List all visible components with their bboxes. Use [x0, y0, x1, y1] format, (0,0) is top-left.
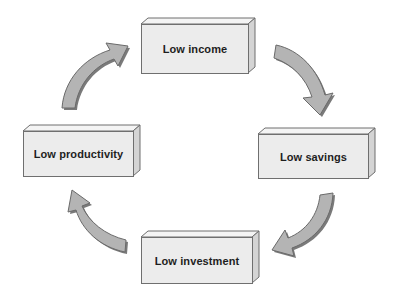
arrow-investment-to-productivity-icon: [68, 190, 128, 254]
node-face: Low income: [141, 24, 249, 74]
node-low-income: Low income: [141, 24, 249, 74]
node-face: Low investment: [141, 237, 253, 284]
node-low-productivity: Low productivity: [23, 131, 134, 177]
node-label: Low productivity: [34, 148, 124, 160]
node-face: Low productivity: [23, 131, 134, 177]
node-label: Low savings: [280, 151, 347, 163]
arrow-income-to-savings-icon: [274, 45, 335, 117]
arrow-savings-to-investment-icon: [272, 193, 335, 258]
node-label: Low investment: [155, 255, 240, 267]
node-low-savings: Low savings: [258, 134, 369, 179]
node-label: Low income: [163, 43, 228, 55]
vicious-cycle-diagram: Low income Low savings Low investment Lo…: [0, 0, 404, 305]
arrow-productivity-to-income-icon: [62, 43, 130, 110]
node-low-investment: Low investment: [141, 237, 253, 284]
node-face: Low savings: [258, 134, 369, 179]
